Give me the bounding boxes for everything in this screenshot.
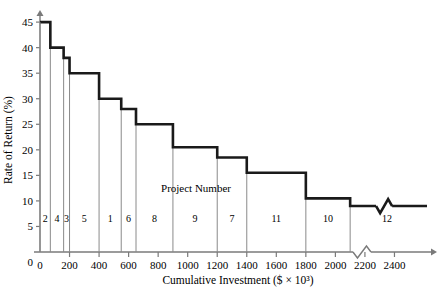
project-number-label: 9 bbox=[193, 213, 198, 224]
project-number-label: 8 bbox=[152, 213, 157, 224]
project-number-label: 5 bbox=[82, 213, 87, 224]
y-tick-label: 30 bbox=[22, 93, 34, 105]
x-tick-label: 1600 bbox=[265, 259, 288, 271]
x-tick-label: 0 bbox=[37, 259, 43, 271]
y-tick-label: 0 bbox=[28, 256, 34, 268]
y-tick-label: 5 bbox=[28, 220, 34, 232]
project-number-label: 7 bbox=[230, 213, 235, 224]
x-tick-label: 2000 bbox=[324, 259, 347, 271]
y-tick-label: 20 bbox=[22, 144, 34, 156]
project-number-annotation: Project Number bbox=[161, 182, 231, 194]
project-divider-lines bbox=[50, 48, 350, 252]
x-tick-label: 200 bbox=[61, 259, 78, 271]
y-tick-label: 25 bbox=[22, 118, 34, 130]
y-tick-label: 35 bbox=[22, 67, 34, 79]
y-tick-label: 40 bbox=[22, 42, 34, 54]
x-tick-label: 1800 bbox=[295, 259, 318, 271]
x-axis: 0200400600800100012001400160018002000220… bbox=[34, 246, 437, 271]
y-tick-label: 15 bbox=[22, 169, 34, 181]
series-break-symbol bbox=[376, 199, 392, 213]
x-tick-label: 2400 bbox=[383, 259, 406, 271]
x-tick-label: 400 bbox=[91, 259, 108, 271]
chart-container: 510152025303540450 020040060080010001200… bbox=[0, 0, 442, 291]
x-tick-label: 2200 bbox=[354, 259, 377, 271]
project-number-label: 10 bbox=[323, 213, 333, 224]
x-tick-label: 1400 bbox=[236, 259, 259, 271]
x-tick-label: 600 bbox=[120, 259, 137, 271]
y-tick-label: 45 bbox=[22, 16, 34, 28]
x-axis-arrow bbox=[431, 249, 437, 256]
project-number-label: 4 bbox=[54, 213, 59, 224]
project-number-label: 12 bbox=[382, 213, 392, 224]
project-number-label: 1 bbox=[108, 213, 113, 224]
project-number-label: 6 bbox=[126, 213, 131, 224]
project-number-label: 11 bbox=[271, 213, 281, 224]
project-number-label: 3 bbox=[64, 213, 69, 224]
step-line-path bbox=[40, 22, 376, 206]
y-tick-label: 10 bbox=[22, 195, 34, 207]
x-tick-label: 1000 bbox=[177, 259, 200, 271]
x-axis-break-symbol bbox=[353, 246, 371, 258]
x-tick-label: 800 bbox=[150, 259, 167, 271]
x-tick-label: 1200 bbox=[206, 259, 229, 271]
x-axis-title: Cumulative Investment ($ × 10³) bbox=[162, 274, 313, 287]
y-axis-title: Rate of Return (%) bbox=[2, 96, 15, 184]
investment-opportunity-schedule-chart: 510152025303540450 020040060080010001200… bbox=[0, 0, 442, 291]
y-axis-arrow bbox=[37, 10, 44, 16]
project-number-label: 2 bbox=[43, 213, 48, 224]
